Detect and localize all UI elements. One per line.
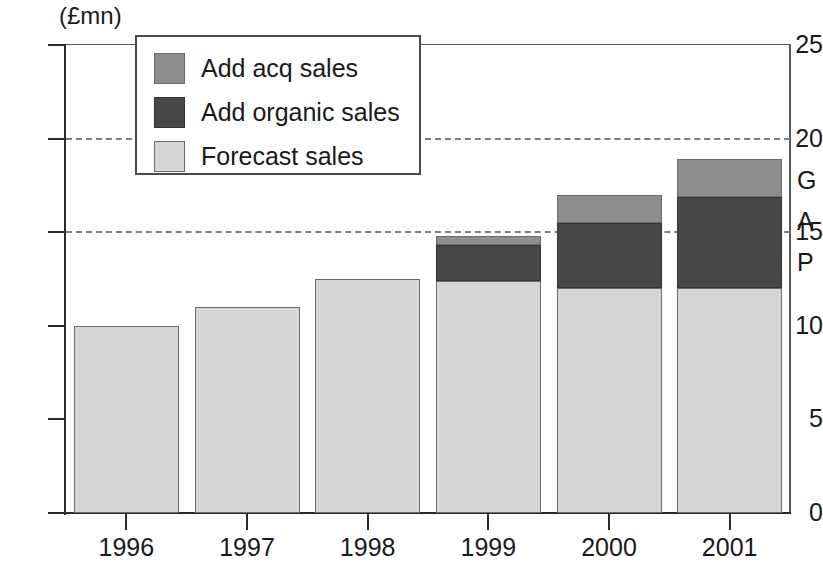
chart-legend: Add acq sales Add organic sales Forecast…	[135, 35, 421, 175]
legend-item-acq: Add acq sales	[137, 46, 419, 90]
x-axis-tick	[608, 514, 610, 530]
organic-swatch-icon	[154, 97, 185, 128]
bar-segment-forecast[interactable]	[557, 288, 662, 513]
bar-group[interactable]	[677, 45, 782, 513]
x-axis-tick-label: 1999	[443, 533, 533, 561]
y-axis-tick	[48, 512, 66, 514]
legend-item-forecast: Forecast sales	[137, 134, 419, 178]
gap-annotation: G A P	[797, 160, 823, 283]
legend-item-organic: Add organic sales	[137, 90, 419, 134]
y-axis-tick-label: 0	[779, 500, 823, 525]
y-axis-tick	[48, 138, 66, 140]
x-axis-tick	[125, 514, 127, 530]
y-axis-tick-label: 10	[779, 313, 823, 338]
sales-forecast-bar-chart: (£mn) 0510152025 19961997199819992000200…	[0, 0, 823, 577]
y-axis-line	[64, 45, 66, 515]
x-axis-tick	[246, 514, 248, 530]
bar-group[interactable]	[557, 45, 662, 513]
forecast-swatch-icon	[154, 141, 185, 172]
y-axis-tick-label: 5	[779, 406, 823, 431]
plot-frame-right	[789, 44, 791, 514]
legend-label-acq: Add acq sales	[201, 55, 358, 81]
x-axis-tick-label: 1998	[323, 533, 413, 561]
bar-group[interactable]	[436, 45, 541, 513]
y-axis-tick	[48, 44, 66, 46]
y-axis-tick-label: 20	[779, 126, 823, 151]
x-axis-tick	[487, 514, 489, 530]
x-axis-tick-label: 2001	[685, 533, 775, 561]
x-axis-tick-label: 1997	[202, 533, 292, 561]
x-axis-tick-label: 1996	[81, 533, 171, 561]
bar-segment-acq[interactable]	[436, 236, 541, 245]
gap-letter-p: P	[797, 242, 823, 283]
y-axis-unit-label: (£mn)	[59, 2, 122, 30]
x-axis-tick	[729, 514, 731, 530]
y-axis-tick-label: 25	[779, 32, 823, 57]
x-axis-tick	[367, 514, 369, 530]
bar-segment-forecast[interactable]	[677, 288, 782, 513]
y-axis-tick	[48, 325, 66, 327]
bar-segment-acq[interactable]	[677, 159, 782, 196]
bar-segment-acq[interactable]	[557, 195, 662, 223]
x-axis-tick-label: 2000	[564, 533, 654, 561]
bar-segment-forecast[interactable]	[195, 307, 300, 513]
bar-segment-organic[interactable]	[557, 223, 662, 289]
bar-segment-forecast[interactable]	[315, 279, 420, 513]
legend-label-forecast: Forecast sales	[201, 143, 364, 169]
y-axis-tick	[48, 231, 66, 233]
bar-segment-organic[interactable]	[677, 197, 782, 289]
bar-segment-forecast[interactable]	[74, 326, 179, 513]
y-axis-tick	[48, 418, 66, 420]
acq-swatch-icon	[154, 53, 185, 84]
gap-letter-g: G	[797, 160, 823, 201]
gap-letter-a: A	[797, 201, 823, 242]
legend-label-organic: Add organic sales	[201, 99, 400, 125]
bar-segment-forecast[interactable]	[436, 281, 541, 513]
bar-segment-organic[interactable]	[436, 245, 541, 281]
